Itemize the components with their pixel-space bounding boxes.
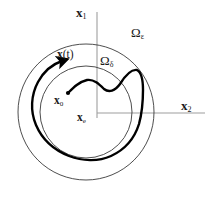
axis-label-x1: x1 [76, 6, 87, 21]
axis-label-x2: x2 [181, 99, 192, 114]
trajectory-label: x(t) [57, 49, 74, 61]
initial-state-subscript: 0 [60, 100, 64, 108]
omega-delta-subscript: δ [110, 60, 114, 69]
region-label-omega-epsilon: Ωε [131, 26, 144, 41]
equilibrium-subscript: e [83, 117, 86, 125]
axis-label-x1-subscript: 1 [83, 12, 87, 21]
phase-plane-figure: x1 x2 Ωε Ωδ x(t) x0 xe [0, 0, 213, 197]
omega-epsilon-symbol: Ω [131, 25, 141, 40]
omega-epsilon-subscript: ε [141, 32, 144, 41]
trajectory-path [32, 61, 143, 160]
axis-label-x2-subscript: 2 [188, 105, 192, 114]
initial-state-label: x0 [54, 95, 63, 108]
trajectory-label-arg: (t) [63, 48, 74, 60]
region-label-omega-delta: Ωδ [100, 54, 113, 69]
equilibrium-label: xe [77, 112, 86, 125]
omega-delta-symbol: Ω [100, 53, 110, 68]
initial-state-marker [66, 91, 70, 95]
